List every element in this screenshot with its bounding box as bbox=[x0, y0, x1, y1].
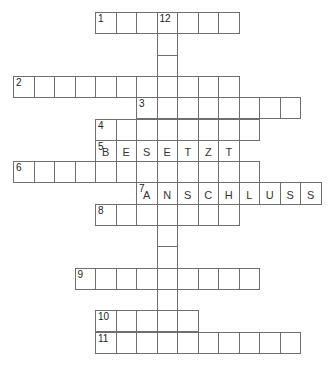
crossword-cell[interactable] bbox=[116, 12, 138, 34]
crossword-cell[interactable] bbox=[136, 204, 158, 226]
crossword-cell[interactable] bbox=[136, 161, 158, 183]
crossword-cell[interactable] bbox=[136, 12, 158, 34]
crossword-cell[interactable] bbox=[54, 161, 76, 183]
crossword-cell[interactable]: 12 bbox=[157, 12, 179, 34]
crossword-cell[interactable] bbox=[95, 268, 117, 290]
crossword-cell[interactable] bbox=[116, 268, 138, 290]
crossword-cell[interactable]: E bbox=[157, 140, 179, 162]
crossword-cell[interactable] bbox=[177, 12, 199, 34]
crossword-cell[interactable] bbox=[157, 246, 179, 268]
crossword-cell[interactable] bbox=[218, 161, 240, 183]
crossword-cell[interactable] bbox=[198, 161, 220, 183]
crossword-cell[interactable]: L bbox=[239, 182, 261, 204]
crossword-cell[interactable] bbox=[239, 97, 261, 119]
crossword-cell[interactable]: H bbox=[218, 182, 240, 204]
crossword-cell[interactable] bbox=[157, 310, 179, 332]
crossword-cell[interactable] bbox=[239, 332, 261, 354]
crossword-cell[interactable] bbox=[239, 161, 261, 183]
crossword-cell[interactable]: 10 bbox=[95, 310, 117, 332]
crossword-cell[interactable] bbox=[177, 161, 199, 183]
crossword-cell[interactable] bbox=[116, 161, 138, 183]
crossword-cell[interactable]: 9 bbox=[75, 268, 97, 290]
crossword-cell[interactable] bbox=[198, 76, 220, 98]
crossword-cell[interactable] bbox=[116, 204, 138, 226]
crossword-cell[interactable] bbox=[116, 76, 138, 98]
crossword-cell[interactable] bbox=[280, 97, 302, 119]
crossword-cell[interactable] bbox=[218, 97, 240, 119]
crossword-cell[interactable] bbox=[136, 268, 158, 290]
crossword-cell[interactable] bbox=[116, 310, 138, 332]
crossword-cell[interactable] bbox=[157, 161, 179, 183]
crossword-cell[interactable]: S bbox=[300, 182, 322, 204]
crossword-cell[interactable] bbox=[95, 161, 117, 183]
crossword-cell[interactable] bbox=[95, 76, 117, 98]
crossword-cell[interactable] bbox=[177, 310, 199, 332]
crossword-cell[interactable]: S bbox=[136, 140, 158, 162]
crossword-cell[interactable]: N bbox=[157, 182, 179, 204]
crossword-cell[interactable] bbox=[177, 204, 199, 226]
crossword-cell[interactable]: 7A bbox=[136, 182, 158, 204]
crossword-cell[interactable] bbox=[198, 97, 220, 119]
crossword-cell[interactable] bbox=[177, 97, 199, 119]
crossword-cell[interactable] bbox=[34, 161, 56, 183]
crossword-cell[interactable] bbox=[136, 76, 158, 98]
crossword-cell[interactable] bbox=[218, 204, 240, 226]
crossword-cell[interactable]: T bbox=[177, 140, 199, 162]
crossword-cell[interactable]: 8 bbox=[95, 204, 117, 226]
crossword-cell[interactable] bbox=[157, 289, 179, 311]
crossword-cell[interactable]: S bbox=[177, 182, 199, 204]
crossword-cell[interactable] bbox=[239, 268, 261, 290]
crossword-cell[interactable]: 4 bbox=[95, 119, 117, 141]
crossword-cell[interactable] bbox=[157, 204, 179, 226]
crossword-cell[interactable] bbox=[239, 119, 261, 141]
crossword-cell[interactable] bbox=[280, 332, 302, 354]
crossword-cell[interactable] bbox=[177, 76, 199, 98]
crossword-cell[interactable] bbox=[157, 97, 179, 119]
crossword-cell[interactable]: C bbox=[198, 182, 220, 204]
crossword-cell[interactable]: S bbox=[280, 182, 302, 204]
crossword-cell[interactable]: 11 bbox=[95, 332, 117, 354]
crossword-cell[interactable] bbox=[75, 76, 97, 98]
crossword-cell[interactable] bbox=[136, 119, 158, 141]
crossword-cell[interactable] bbox=[177, 119, 199, 141]
crossword-cell[interactable] bbox=[116, 119, 138, 141]
cell-letter: U bbox=[260, 189, 280, 201]
crossword-cell[interactable] bbox=[259, 97, 281, 119]
crossword-cell[interactable]: T bbox=[218, 140, 240, 162]
crossword-cell[interactable] bbox=[34, 76, 56, 98]
crossword-cell[interactable] bbox=[198, 268, 220, 290]
crossword-cell[interactable] bbox=[136, 332, 158, 354]
crossword-cell[interactable] bbox=[198, 204, 220, 226]
crossword-cell[interactable] bbox=[157, 268, 179, 290]
crossword-cell[interactable]: Z bbox=[198, 140, 220, 162]
crossword-cell[interactable] bbox=[157, 33, 179, 55]
crossword-cell[interactable]: 1 bbox=[95, 12, 117, 34]
crossword-cell[interactable] bbox=[218, 332, 240, 354]
crossword-cell[interactable]: E bbox=[116, 140, 138, 162]
crossword-cell[interactable]: 5B bbox=[95, 140, 117, 162]
crossword-cell[interactable] bbox=[198, 332, 220, 354]
crossword-cell[interactable]: 3 bbox=[136, 97, 158, 119]
cell-divider bbox=[95, 140, 96, 162]
crossword-cell[interactable] bbox=[157, 76, 179, 98]
crossword-cell[interactable] bbox=[198, 12, 220, 34]
crossword-cell[interactable] bbox=[177, 332, 199, 354]
crossword-cell[interactable] bbox=[218, 119, 240, 141]
crossword-cell[interactable] bbox=[157, 55, 179, 77]
crossword-cell[interactable] bbox=[157, 225, 179, 247]
crossword-cell[interactable] bbox=[198, 119, 220, 141]
crossword-cell[interactable] bbox=[218, 268, 240, 290]
crossword-cell[interactable] bbox=[177, 268, 199, 290]
crossword-cell[interactable] bbox=[157, 332, 179, 354]
crossword-cell[interactable] bbox=[157, 119, 179, 141]
crossword-cell[interactable] bbox=[116, 332, 138, 354]
crossword-cell[interactable]: 2 bbox=[13, 76, 35, 98]
crossword-cell[interactable]: 6 bbox=[13, 161, 35, 183]
crossword-cell[interactable]: U bbox=[259, 182, 281, 204]
crossword-cell[interactable] bbox=[218, 76, 240, 98]
crossword-cell[interactable] bbox=[259, 332, 281, 354]
crossword-cell[interactable] bbox=[218, 12, 240, 34]
crossword-cell[interactable] bbox=[75, 161, 97, 183]
crossword-cell[interactable] bbox=[136, 310, 158, 332]
crossword-cell[interactable] bbox=[54, 76, 76, 98]
